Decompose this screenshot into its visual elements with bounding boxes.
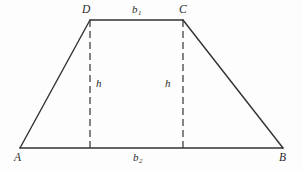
edge-side-ad [20,20,90,148]
vertex-label-c: C [179,4,187,16]
bottom-base-subscript: 2 [139,157,143,165]
vertex-label-a: A [14,152,21,164]
top-base-subscript: 1 [138,9,142,17]
trapezoid-diagram: A B C D b1 b2 h h [0,0,302,171]
trapezoid-figure [0,0,302,171]
edge-side-cb [183,20,283,148]
height-label-left: h [96,78,102,89]
top-base-letter: b [132,3,138,15]
vertex-label-b: B [279,152,286,164]
vertex-label-d: D [82,4,90,16]
top-base-label: b1 [132,4,141,15]
height-label-right: h [165,78,171,89]
bottom-base-label: b2 [133,152,142,163]
bottom-base-letter: b [133,151,139,163]
